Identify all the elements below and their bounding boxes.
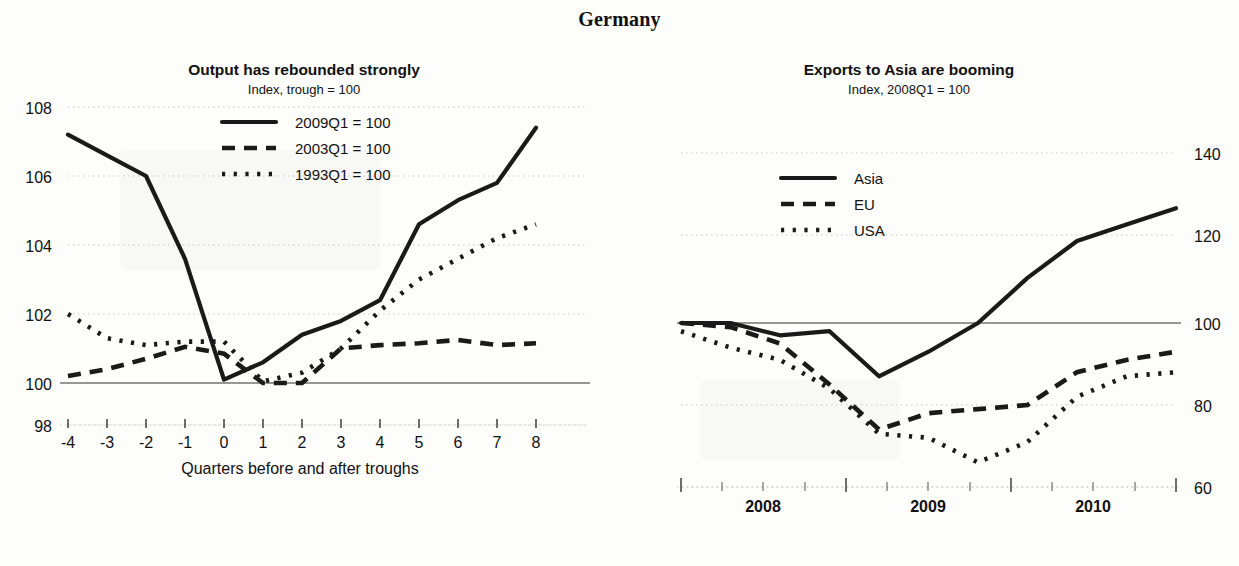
right-ytick-140: 140	[1194, 146, 1221, 163]
right-x-tick-labels: 2008 2009 2010	[745, 498, 1111, 515]
right-ytick-80: 80	[1194, 398, 1212, 415]
right-ytick-100: 100	[1194, 316, 1221, 333]
chart-panel-output: Output has rebounded strongly Index, tro…	[0, 60, 620, 566]
left-xtick-3: 3	[337, 434, 346, 451]
right-xtick-2008: 2008	[745, 498, 781, 515]
left-xtick-2: 2	[298, 434, 307, 451]
left-xtick-0: 0	[220, 434, 229, 451]
right-legend-label-usa: USA	[854, 222, 885, 239]
right-chart-svg: 140 120 100 80 60	[619, 60, 1239, 520]
right-plot-area: 140 120 100 80 60	[619, 60, 1239, 566]
left-y-tick-labels: 108 106 104 102 100 98	[25, 100, 52, 435]
left-xtick--3: -3	[100, 434, 114, 451]
right-xtick-2010: 2010	[1075, 498, 1111, 515]
left-series-1993	[68, 224, 536, 381]
left-legend-label-2003: 2003Q1 = 100	[295, 140, 391, 157]
right-xtick-2009: 2009	[910, 498, 946, 515]
page-title: Germany	[0, 8, 1239, 31]
left-xtick--1: -1	[178, 434, 192, 451]
left-xtick-7: 7	[493, 434, 502, 451]
right-y-tick-labels: 140 120 100 80 60	[1194, 146, 1221, 497]
left-legend-label-2009: 2009Q1 = 100	[295, 114, 391, 131]
left-ytick-100: 100	[25, 376, 52, 393]
left-series-2003	[68, 340, 536, 383]
left-chart-svg: 108 106 104 102 100 98	[0, 60, 620, 520]
left-plot-area: 108 106 104 102 100 98	[0, 60, 620, 566]
chart-panel-exports: Exports to Asia are booming Index, 2008Q…	[619, 60, 1239, 566]
right-series-asia	[681, 208, 1176, 376]
left-xtick-4: 4	[376, 434, 385, 451]
left-x-ticks	[68, 419, 536, 428]
right-legend-label-eu: EU	[854, 196, 875, 213]
left-legend-label-1993: 1993Q1 = 100	[295, 166, 391, 183]
right-series-eu	[681, 323, 1176, 430]
right-ytick-60: 60	[1194, 480, 1212, 497]
left-xtick-1: 1	[259, 434, 268, 451]
right-ytick-120: 120	[1194, 228, 1221, 245]
left-ytick-108: 108	[25, 100, 52, 117]
left-x-axis-title: Quarters before and after troughs	[181, 460, 418, 477]
left-ytick-106: 106	[25, 169, 52, 186]
left-xtick--4: -4	[61, 434, 75, 451]
right-legend-label-asia: Asia	[854, 170, 884, 187]
right-gridlines	[681, 153, 1175, 487]
left-xtick-6: 6	[454, 434, 463, 451]
left-ytick-102: 102	[25, 307, 52, 324]
left-x-tick-labels: -4 -3 -2 -1 0 1 2 3 4 5 6 7 8	[61, 434, 541, 451]
left-xtick--2: -2	[139, 434, 153, 451]
left-xtick-8: 8	[532, 434, 541, 451]
left-xtick-5: 5	[415, 434, 424, 451]
left-legend: 2009Q1 = 100 2003Q1 = 100 1993Q1 = 100	[222, 114, 391, 183]
left-ytick-104: 104	[25, 238, 52, 255]
right-legend: Asia EU USA	[781, 170, 885, 239]
left-ytick-98: 98	[34, 418, 52, 435]
